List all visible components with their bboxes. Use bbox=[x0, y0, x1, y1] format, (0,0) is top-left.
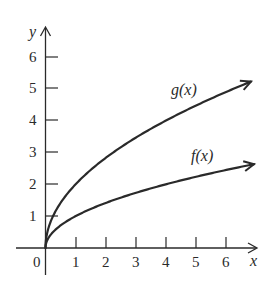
y-ticks bbox=[46, 57, 59, 216]
chart: 0 1 2 3 4 5 6 x 1 2 3 4 5 6 y g(x) f(x) bbox=[0, 0, 270, 282]
y-tick-label: 5 bbox=[29, 80, 37, 96]
x-tick-label: 5 bbox=[192, 254, 200, 270]
y-tick-label: 3 bbox=[29, 144, 37, 160]
g-curve-label: g(x) bbox=[171, 81, 197, 99]
x-tick-label: 2 bbox=[102, 254, 110, 270]
x-tick-label: 6 bbox=[222, 254, 230, 270]
x-tick-label: 3 bbox=[132, 254, 140, 270]
origin-label: 0 bbox=[33, 254, 41, 270]
y-tick-label: 6 bbox=[29, 49, 37, 65]
x-ticks bbox=[76, 237, 226, 248]
x-axis-label: x bbox=[249, 252, 257, 269]
g-curve bbox=[46, 82, 252, 248]
x-tick-label: 4 bbox=[162, 254, 170, 270]
y-tick-label: 2 bbox=[29, 176, 37, 192]
y-axis-label: y bbox=[27, 23, 37, 41]
f-curve-label: f(x) bbox=[191, 147, 213, 165]
y-axis: 1 2 3 4 5 6 y bbox=[27, 23, 58, 275]
x-axis: 0 1 2 3 4 5 6 x bbox=[16, 237, 257, 270]
y-tick-label: 1 bbox=[29, 208, 37, 224]
x-tick-label: 1 bbox=[72, 254, 80, 270]
y-tick-label: 4 bbox=[29, 112, 37, 128]
f-curve bbox=[46, 164, 255, 248]
